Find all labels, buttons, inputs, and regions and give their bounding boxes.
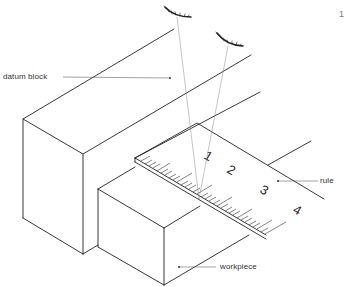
diagram-canvas: 1 2 3 4 <box>0 0 345 287</box>
eye-icon <box>164 6 191 17</box>
leader-datum-block <box>63 77 170 78</box>
rule-number-3: 3 <box>258 182 272 199</box>
rule-number-2: 2 <box>225 162 239 179</box>
label-datum-block: datum block <box>3 73 47 81</box>
eye-icon <box>216 32 243 46</box>
figure-mark: 1 <box>339 9 344 19</box>
sight-line-2 <box>199 46 228 199</box>
sight-lines <box>177 17 228 199</box>
leader-dots <box>169 77 279 268</box>
rule-number-4: 4 <box>291 202 305 219</box>
label-workpiece: workpiece <box>220 263 257 271</box>
rule-numbers: 1 2 3 4 <box>202 148 305 219</box>
label-rule: rule <box>320 177 334 185</box>
sight-line-1 <box>177 17 199 199</box>
datum-block <box>23 29 260 254</box>
